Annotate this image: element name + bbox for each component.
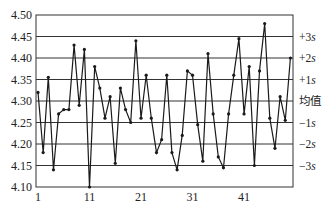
data-point — [72, 44, 75, 47]
data-point — [248, 65, 251, 68]
x-tick-label: 11 — [84, 190, 96, 204]
data-point — [165, 74, 168, 77]
control-limit-label: −2s — [299, 138, 316, 150]
data-point — [217, 155, 220, 158]
data-point — [67, 108, 70, 111]
y-tick-label: 4.25 — [11, 116, 32, 130]
data-point — [253, 164, 256, 167]
data-point — [268, 117, 271, 120]
data-point — [145, 74, 148, 77]
data-point — [36, 91, 39, 94]
data-point — [52, 168, 55, 171]
control-chart: 4.104.154.204.254.304.354.404.454.50 111… — [0, 0, 325, 212]
data-point — [150, 117, 153, 120]
data-series-line — [38, 24, 290, 187]
control-limit-label: +3s — [299, 31, 316, 43]
data-point — [62, 108, 65, 111]
data-point — [263, 22, 266, 25]
x-tick-label: 1 — [35, 190, 41, 204]
data-point — [273, 147, 276, 150]
control-limit-label: −1s — [299, 117, 316, 129]
control-limit-label: 均值 — [299, 95, 322, 107]
data-point — [284, 119, 287, 122]
data-point — [57, 112, 60, 115]
data-point — [103, 117, 106, 120]
data-point — [139, 117, 142, 120]
data-point — [212, 112, 215, 115]
data-point — [98, 87, 101, 90]
data-point — [201, 160, 204, 163]
data-point — [114, 162, 117, 165]
x-tick-label: 21 — [135, 190, 147, 204]
data-point — [206, 52, 209, 55]
control-limit-label: −3s — [299, 160, 316, 172]
data-point — [119, 87, 122, 90]
control-limit-label: +1s — [299, 74, 316, 86]
x-tick-label: 31 — [187, 190, 199, 204]
y-axis-tick-labels: 4.104.154.204.254.304.354.404.454.50 — [11, 8, 32, 194]
x-axis-tick-labels: 111213141 — [35, 190, 250, 204]
data-point — [196, 123, 199, 126]
data-point — [47, 76, 50, 79]
control-limit-label: +2s — [299, 52, 316, 64]
data-point — [129, 121, 132, 124]
y-tick-label: 4.35 — [11, 73, 32, 87]
data-point — [109, 95, 112, 98]
data-point — [222, 166, 225, 169]
data-point — [227, 112, 230, 115]
y-tick-label: 4.15 — [11, 159, 32, 173]
data-point — [78, 104, 81, 107]
data-point — [191, 74, 194, 77]
y-tick-label: 4.20 — [11, 137, 32, 151]
data-point — [175, 168, 178, 171]
y-tick-label: 4.40 — [11, 51, 32, 65]
y-tick-label: 4.30 — [11, 94, 32, 108]
data-point — [124, 108, 127, 111]
data-point — [186, 69, 189, 72]
data-point — [88, 185, 91, 188]
data-point — [242, 112, 245, 115]
data-point — [279, 95, 282, 98]
data-point — [181, 134, 184, 137]
data-point — [237, 37, 240, 40]
x-tick-label: 41 — [238, 190, 250, 204]
data-point — [170, 151, 173, 154]
data-point — [93, 65, 96, 68]
data-point — [232, 74, 235, 77]
control-limit-labels: +3s+2s+1s均值−1s−2s−3s — [299, 31, 322, 172]
data-point — [258, 69, 261, 72]
y-tick-label: 4.50 — [11, 8, 32, 22]
y-tick-label: 4.45 — [11, 30, 32, 44]
data-point — [155, 151, 158, 154]
data-point — [289, 56, 292, 59]
data-point — [160, 138, 163, 141]
data-point — [42, 151, 45, 154]
data-point — [83, 48, 86, 51]
data-point — [134, 39, 137, 42]
y-tick-label: 4.10 — [11, 180, 32, 194]
